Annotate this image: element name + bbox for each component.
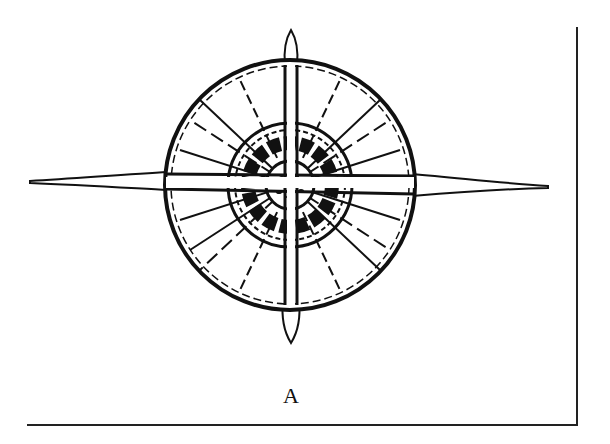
radiolarian-drawing: [0, 0, 610, 444]
specimen: [30, 30, 548, 343]
figure-label: A: [283, 383, 299, 409]
